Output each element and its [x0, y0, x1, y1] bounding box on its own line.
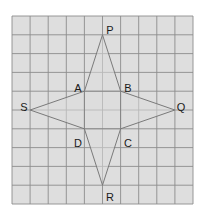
vertex-label-q: Q [177, 101, 186, 113]
vertex-label-a: A [74, 82, 82, 94]
star-grid-diagram: PABSQDCR [0, 0, 203, 211]
vertex-label-s: S [20, 101, 27, 113]
vertex-label-p: P [106, 24, 113, 36]
vertex-label-b: B [124, 82, 131, 94]
vertex-label-r: R [106, 191, 114, 203]
vertex-label-c: C [124, 137, 132, 149]
vertex-label-d: D [74, 137, 82, 149]
